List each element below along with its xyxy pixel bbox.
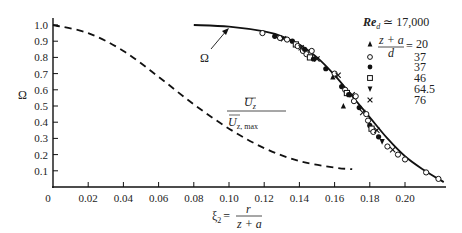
- svg-text:d: d: [388, 46, 395, 60]
- x-tick-label: 0.14: [290, 192, 310, 204]
- svg-text:Ω: Ω: [200, 51, 209, 65]
- x-tick-label: 0.18: [360, 192, 380, 204]
- marker-circle-open: [402, 157, 407, 162]
- y-tick-label: 0.8: [34, 51, 48, 63]
- marker-x: [390, 147, 395, 152]
- y-tick-label: 1.0: [34, 19, 48, 31]
- legend-entry: 76: [368, 93, 426, 107]
- marker-circle-open: [368, 55, 373, 60]
- y-tick-label: 0.4: [34, 116, 48, 128]
- x-axis-title: ξ2= r z + a: [212, 202, 262, 231]
- y-axis: 0.10.20.30.40.50.60.70.80.91.0: [34, 18, 58, 188]
- svg-text:z + a: z + a: [378, 33, 404, 47]
- marker-circle-open: [395, 152, 400, 157]
- marker-circle-open: [364, 112, 369, 117]
- svg-text:ξ2=: ξ2=: [212, 209, 230, 225]
- marker-circle-filled: [272, 34, 277, 39]
- dashed-curve-uz-ratio: [53, 25, 352, 169]
- x-tick-label: 0.16: [325, 192, 345, 204]
- chart: 0.10.20.30.40.50.60.70.80.91.0 00.020.04…: [0, 0, 462, 233]
- svg-text:=: =: [406, 39, 413, 53]
- dashed-curve-label: Uz Uz, max: [227, 0, 286, 131]
- legend-value: 20: [416, 37, 428, 51]
- svg-text:Uz, max: Uz, max: [228, 115, 258, 131]
- svg-text:Red≃ 17,000: Red≃ 17,000: [362, 15, 429, 31]
- svg-text:r: r: [246, 202, 251, 216]
- marker-triangle-down: [380, 139, 385, 145]
- svg-text:z + a: z + a: [236, 217, 262, 231]
- marker-circle-open: [385, 144, 390, 149]
- marker-circle-open: [284, 37, 289, 42]
- marker-circle-open: [353, 94, 358, 99]
- reynolds-label: Red≃ 17,000: [362, 15, 429, 31]
- marker-x: [368, 98, 373, 103]
- x-tick-label: 0: [45, 192, 51, 204]
- legend: z + a d = 2037374664.576: [368, 33, 435, 107]
- marker-triangle-down: [368, 87, 373, 92]
- marker-circle-open: [424, 170, 429, 175]
- x-tick-label: 0.06: [149, 192, 169, 204]
- svg-text:Uz: Uz: [244, 95, 257, 111]
- legend-value: 76: [414, 93, 426, 107]
- y-tick-label: 0.3: [34, 132, 48, 144]
- x-tick-label: 0.12: [255, 192, 274, 204]
- marker-circle-open: [260, 30, 265, 35]
- marker-triangle-up: [341, 103, 346, 109]
- marker-circle-open: [309, 48, 314, 53]
- y-axis-title: Ω: [18, 88, 27, 102]
- marker-circle-open: [436, 176, 441, 181]
- y-tick-label: 0.7: [34, 68, 48, 80]
- x-tick-label: 0.10: [219, 192, 239, 204]
- marker-triangle-up: [368, 41, 373, 46]
- marker-circle-filled: [357, 105, 362, 110]
- marker-circle-open: [365, 118, 370, 123]
- x-tick-label: 0.08: [184, 192, 204, 204]
- y-tick-label: 0.9: [34, 35, 48, 47]
- x-tick-label: 0.20: [395, 192, 415, 204]
- x-tick-label: 0.02: [79, 192, 98, 204]
- y-tick-label: 0.1: [34, 165, 48, 177]
- y-tick-label: 0.6: [34, 84, 48, 96]
- y-tick-label: 0.2: [34, 149, 48, 161]
- marker-circle-filled: [376, 134, 381, 139]
- omega-annotation: Ω: [200, 28, 229, 65]
- y-tick-label: 0.5: [34, 100, 48, 112]
- marker-circle-filled: [323, 66, 328, 71]
- x-axis: 00.020.040.060.080.100.120.140.160.180.2…: [45, 182, 446, 204]
- x-tick-label: 0.04: [114, 192, 134, 204]
- marker-square-open: [368, 76, 373, 81]
- marker-circle-filled: [368, 65, 373, 70]
